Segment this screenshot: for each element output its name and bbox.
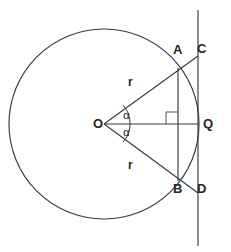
label-radius-lower: r bbox=[128, 159, 133, 171]
label-center-o: O bbox=[93, 117, 103, 130]
label-point-b: B bbox=[173, 182, 182, 195]
right-angle-marker-icon bbox=[166, 112, 178, 124]
geometry-canvas bbox=[0, 0, 231, 252]
label-point-a: A bbox=[173, 43, 182, 56]
label-angle-alpha-lower: α bbox=[123, 127, 130, 139]
label-angle-alpha-upper: α bbox=[123, 110, 130, 122]
label-radius-upper: r bbox=[128, 76, 133, 88]
label-point-q: Q bbox=[203, 117, 213, 130]
label-point-c: C bbox=[197, 42, 206, 55]
geometry-diagram: O A C Q B D r r α α bbox=[0, 0, 231, 252]
ray-o-to-c bbox=[104, 56, 198, 124]
ray-o-to-d bbox=[104, 124, 198, 193]
label-point-d: D bbox=[197, 182, 206, 195]
